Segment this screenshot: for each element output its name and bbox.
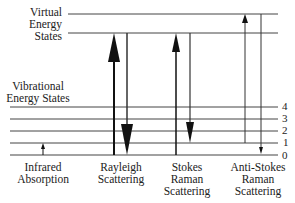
infrared-arrow-icon bbox=[41, 143, 45, 155]
anti-stokes-raman-scattering-label: Anti-Stokes Raman Scattering bbox=[222, 161, 294, 197]
level-number-4: 4 bbox=[282, 101, 288, 112]
label-line: Scattering bbox=[86, 173, 156, 185]
anti-stokes-down-arrow-icon bbox=[259, 14, 263, 154]
label-line: States bbox=[0, 30, 62, 42]
label-line: Vibrational bbox=[2, 80, 74, 92]
level-number-1: 1 bbox=[283, 137, 289, 148]
rayleigh-down-arrow-icon bbox=[121, 33, 133, 155]
level-number-2: 2 bbox=[282, 125, 288, 136]
label-line: Raman bbox=[222, 173, 294, 185]
label-line: Rayleigh bbox=[86, 161, 156, 173]
label-line: Energy States bbox=[2, 92, 74, 104]
label-line: Scattering bbox=[222, 185, 294, 197]
stokes-raman-scattering-label: Stokes Raman Scattering bbox=[152, 161, 222, 197]
label-line: Virtual bbox=[0, 6, 62, 18]
rayleigh-scattering-label: Rayleigh Scattering bbox=[86, 161, 156, 185]
label-line: Stokes bbox=[152, 161, 222, 173]
label-line: Scattering bbox=[152, 185, 222, 197]
label-line: Energy bbox=[0, 18, 62, 30]
stokes-up-arrow-icon bbox=[172, 33, 180, 155]
label-line: Anti-Stokes bbox=[222, 161, 294, 173]
stokes-down-arrow-icon bbox=[186, 33, 194, 143]
vibrational-states-label: Vibrational Energy States bbox=[2, 80, 74, 104]
label-line: Infrared bbox=[8, 161, 78, 173]
level-number-0: 0 bbox=[282, 150, 288, 161]
label-line: Absorption bbox=[8, 173, 78, 185]
level-number-3: 3 bbox=[282, 113, 288, 124]
infrared-absorption-label: Infrared Absorption bbox=[8, 161, 78, 185]
rayleigh-up-arrow-icon bbox=[108, 33, 120, 155]
virtual-states-label: Virtual Energy States bbox=[0, 6, 62, 42]
label-line: Raman bbox=[152, 173, 222, 185]
